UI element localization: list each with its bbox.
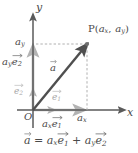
basis-e2-subscript: 2 <box>19 89 23 96</box>
formula-lhs-base: a <box>24 134 31 147</box>
formula-term2-basis: e2 <box>95 134 106 147</box>
formula-caption: a = ax e1 + ay e2 <box>24 134 107 147</box>
origin-label: O <box>24 112 32 122</box>
basis-e1-label: e1 <box>52 92 61 102</box>
x-tick-subscript: x <box>83 116 87 124</box>
x-tick-label: ax <box>77 113 87 124</box>
x-axis-label: x <box>127 107 133 118</box>
point-close-paren: ) <box>125 23 129 34</box>
point-p-label: P(ax, ay) <box>88 24 129 35</box>
component-y-basis-subscript: 2 <box>18 60 22 68</box>
vector-decomposition-figure: y x O ay ax P(ax, ay) a <box>0 0 138 153</box>
component-x-label: ax e1 <box>42 118 62 130</box>
formula-equals: = <box>34 134 43 147</box>
formula-term1-basis: e1 <box>57 134 68 147</box>
component-y-label: ay e2 <box>2 56 22 68</box>
y-tick-subscript: y <box>21 40 25 48</box>
main-vector-base: a <box>50 62 56 73</box>
formula-plus: + <box>72 134 81 147</box>
formula-term1-basis-subscript: 1 <box>64 138 69 147</box>
y-tick-label: ay <box>15 37 25 48</box>
vector-accent-group-e1: e1 <box>52 92 61 102</box>
y-axis-label: y <box>36 2 42 13</box>
vector-accent-group-aye2: e2 <box>12 56 22 68</box>
point-p-marker <box>85 42 89 46</box>
formula-lhs: a <box>24 134 31 146</box>
component-x-basis-subscript: 1 <box>58 122 62 130</box>
vector-accent-group-e2: e2 <box>14 86 23 96</box>
point-p-name: P <box>88 23 95 34</box>
vector-accent-group-a: a <box>50 62 56 73</box>
vector-accent-group-axe1: e1 <box>52 118 62 130</box>
basis-e2-label: e2 <box>14 86 23 96</box>
point-separator: , <box>108 23 112 34</box>
formula-term2-basis-subscript: 2 <box>102 138 107 147</box>
main-vector-label: a <box>50 62 56 73</box>
basis-e1-subscript: 1 <box>57 95 61 102</box>
